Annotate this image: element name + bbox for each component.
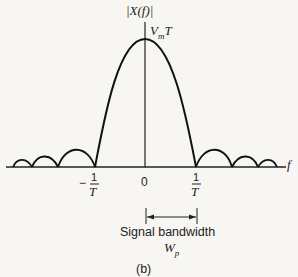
arrow-left-icon	[147, 215, 154, 220]
side-lobe-left-1	[58, 150, 95, 167]
peak-label: VmT	[150, 23, 172, 41]
sinc-spectrum-figure: |X(f)| VmT f − 1 T 0 1 T Signal bandwidt…	[0, 0, 298, 277]
side-lobe-right-3	[258, 160, 277, 167]
side-lobe-left-2	[32, 156, 58, 167]
x-axis-label: f	[287, 157, 291, 173]
peak-label-v: V	[150, 23, 158, 38]
side-lobe-right-1	[196, 150, 232, 167]
tick-zero: 0	[141, 175, 148, 189]
tick-neg-numerator: 1	[91, 171, 97, 183]
arrow-right-icon	[189, 215, 196, 220]
peak-label-t: T	[164, 23, 171, 38]
side-lobe-left-3	[13, 160, 32, 167]
tick-neg-denominator: T	[89, 184, 96, 200]
tick-pos-numerator: 1	[193, 171, 199, 183]
figure-caption: (b)	[136, 262, 151, 276]
tick-neg-sign: −	[79, 176, 86, 191]
bandwidth-label: Signal bandwidth	[120, 225, 215, 239]
y-axis-label: |X(f)|	[126, 3, 153, 19]
tick-pos-denominator: T	[191, 184, 198, 200]
side-lobe-right-2	[232, 156, 258, 167]
bandwidth-symbol: Wp	[164, 240, 179, 258]
